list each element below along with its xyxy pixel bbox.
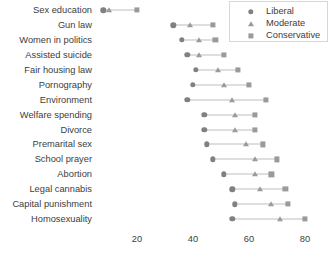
range-connector-line <box>204 129 254 130</box>
data-point-liberal[interactable] <box>185 97 190 102</box>
x-tick-label: 20 <box>132 234 142 244</box>
data-point-moderate[interactable] <box>257 186 263 191</box>
legend-label: Liberal <box>266 5 294 18</box>
data-point-moderate[interactable] <box>187 22 193 27</box>
data-point-conservative[interactable] <box>235 67 240 72</box>
data-point-moderate[interactable] <box>232 112 238 117</box>
x-axis: 20406080 <box>0 228 329 257</box>
data-point-conservative[interactable] <box>252 112 257 117</box>
data-point-moderate[interactable] <box>221 82 227 87</box>
data-point-conservative[interactable] <box>286 202 291 207</box>
data-point-liberal[interactable] <box>201 127 206 132</box>
data-point-liberal[interactable] <box>232 201 237 206</box>
range-connector-line <box>213 159 277 160</box>
legend-item-moderate[interactable]: Moderate <box>230 17 329 30</box>
legend-item-conservative[interactable]: Conservative <box>230 29 329 42</box>
data-point-conservative[interactable] <box>246 82 251 87</box>
data-point-conservative[interactable] <box>263 97 268 102</box>
range-connector-line <box>187 99 265 100</box>
range-connector-line <box>207 144 263 145</box>
data-point-conservative[interactable] <box>274 157 279 162</box>
dot-plot-chart: Sex educationGun lawWomen in politicsAss… <box>0 0 329 257</box>
data-point-moderate[interactable] <box>229 97 235 102</box>
data-point-moderate[interactable] <box>232 127 238 132</box>
data-point-liberal[interactable] <box>185 52 190 57</box>
data-point-conservative[interactable] <box>269 172 274 177</box>
data-point-conservative[interactable] <box>134 8 139 13</box>
range-connector-line <box>187 54 223 55</box>
data-point-conservative[interactable] <box>252 127 257 132</box>
data-point-liberal[interactable] <box>229 187 234 192</box>
data-point-liberal[interactable] <box>201 112 206 117</box>
data-point-liberal[interactable] <box>179 37 184 42</box>
data-point-liberal[interactable] <box>210 157 215 162</box>
legend-label: Conservative <box>266 29 320 42</box>
data-point-moderate[interactable] <box>252 157 258 162</box>
data-point-conservative[interactable] <box>210 23 215 28</box>
data-point-liberal[interactable] <box>229 216 234 221</box>
legend-marker-square-icon <box>248 33 253 38</box>
legend-marker-triangle-icon <box>248 21 254 26</box>
range-connector-line <box>235 204 288 205</box>
x-tick-label: 40 <box>188 234 198 244</box>
data-point-moderate[interactable] <box>106 7 112 12</box>
x-tick-label: 80 <box>300 234 310 244</box>
data-point-moderate[interactable] <box>277 216 283 221</box>
data-point-liberal[interactable] <box>204 142 209 147</box>
data-point-conservative[interactable] <box>221 52 226 57</box>
data-point-conservative[interactable] <box>302 216 307 221</box>
data-point-conservative[interactable] <box>260 142 265 147</box>
data-point-conservative[interactable] <box>213 37 218 42</box>
data-point-moderate[interactable] <box>196 52 202 57</box>
data-point-moderate[interactable] <box>215 67 221 72</box>
data-point-moderate[interactable] <box>196 37 202 42</box>
legend: LiberalModerateConservative <box>229 1 328 42</box>
range-connector-line <box>224 174 272 175</box>
data-point-liberal[interactable] <box>190 82 195 87</box>
data-point-moderate[interactable] <box>252 172 258 177</box>
data-point-moderate[interactable] <box>243 142 249 147</box>
data-point-moderate[interactable] <box>268 201 274 206</box>
data-point-liberal[interactable] <box>193 67 198 72</box>
legend-item-liberal[interactable]: Liberal <box>230 5 329 18</box>
x-tick-label: 60 <box>244 234 254 244</box>
range-connector-line <box>232 219 305 220</box>
data-point-conservative[interactable] <box>283 187 288 192</box>
data-point-liberal[interactable] <box>221 172 226 177</box>
legend-marker-circle-icon <box>248 9 253 14</box>
legend-label: Moderate <box>266 17 305 30</box>
data-point-liberal[interactable] <box>171 22 176 27</box>
range-connector-line <box>204 114 254 115</box>
